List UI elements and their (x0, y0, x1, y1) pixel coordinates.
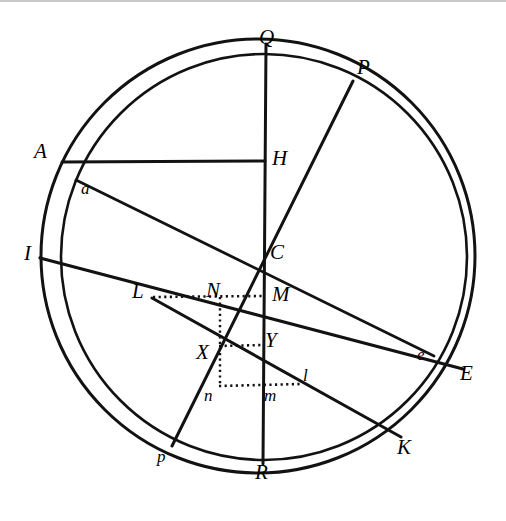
label-m: m (264, 387, 276, 404)
label-E: E (460, 363, 473, 384)
label-M: M (272, 284, 290, 305)
label-N: N (206, 280, 220, 301)
label-K: K (397, 437, 411, 458)
label-p: p (157, 448, 166, 465)
label-l: l (303, 367, 308, 384)
label-n: n (204, 387, 213, 404)
label-a: a (81, 180, 90, 197)
label-I: I (24, 243, 31, 264)
label-X: X (196, 342, 209, 363)
dotted-n-m-l (219, 384, 301, 386)
geometric-figure: Q P A H a I C L N M Y X e E l n m K p R (0, 0, 506, 521)
label-P: P (357, 57, 370, 78)
label-C: C (270, 242, 284, 263)
label-R: R (255, 462, 268, 483)
dotted-X-Y (219, 345, 263, 346)
outer-circle (41, 39, 475, 473)
label-A: A (34, 141, 47, 162)
line-A-H (62, 161, 265, 162)
label-Y: Y (265, 330, 277, 351)
label-L: L (132, 281, 144, 302)
label-H: H (272, 148, 287, 169)
label-e: e (417, 346, 425, 363)
label-Q: Q (259, 27, 274, 48)
diagram-canvas (0, 0, 506, 521)
line-a-e (76, 180, 434, 356)
